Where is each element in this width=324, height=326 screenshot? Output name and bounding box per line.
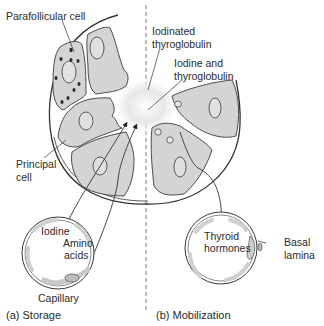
label-iodinated-thyroglobulin-line1: Iodinated (152, 25, 195, 37)
label-basal-lamina-line1: Basal (284, 236, 310, 248)
caption-storage: (a) Storage (6, 309, 61, 321)
principal-cell-top (87, 27, 128, 94)
label-capillary: Capillary (38, 292, 79, 304)
label-principal-cell-line1: Principal (16, 158, 56, 170)
label-iodine-thyroglobulin-line2: thyroglobulin (174, 70, 234, 82)
label-amino-acids-line1: Amino (63, 237, 93, 249)
label-iodine: Iodine (41, 225, 70, 237)
label-thyroid-hormones-line1: Thyroid (204, 230, 239, 242)
label-thyroid-hormones-line2: hormones (204, 242, 251, 254)
principal-cell-right-bottom (151, 123, 212, 195)
label-basal-lamina-line2: lamina (284, 249, 315, 261)
label-iodine-thyroglobulin-line1: Iodine and (174, 57, 223, 69)
label-iodinated-thyroglobulin-line2: thyroglobulin (152, 38, 212, 50)
label-parafollicular-cell: Parafollicular cell (6, 10, 85, 22)
label-amino-acids-line2: acids (64, 249, 89, 261)
label-principal-cell-line2: cell (16, 171, 32, 183)
caption-mobilization: (b) Mobilization (156, 309, 231, 321)
parafollicular-cell (53, 41, 86, 110)
